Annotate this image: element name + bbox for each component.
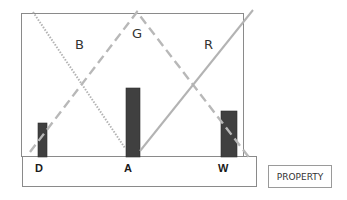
property-box: PROPERTY	[268, 165, 332, 188]
diagram-canvas: B G R D A W PROPERTY	[0, 0, 347, 200]
region-label-g: G	[132, 27, 142, 40]
property-label: PROPERTY	[277, 172, 323, 182]
region-label-r: R	[204, 38, 213, 51]
region-label-b: B	[75, 38, 84, 51]
base-label-d: D	[35, 163, 43, 174]
bar-a	[126, 88, 140, 157]
base-label-w: W	[218, 163, 228, 174]
bar-w	[221, 111, 237, 157]
base-label-a: A	[124, 163, 132, 174]
